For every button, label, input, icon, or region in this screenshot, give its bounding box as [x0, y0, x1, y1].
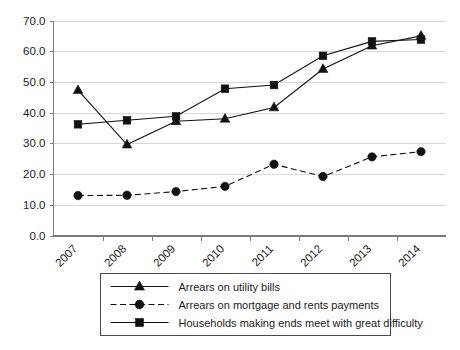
legend-item-label: Households making ends meet with great d… — [179, 317, 424, 329]
y-axis-tick-label: 60.0 — [23, 45, 45, 57]
y-axis-tick-label: 30.0 — [23, 137, 45, 149]
legend-item-label: Arrears on mortgage and rents payments — [179, 299, 380, 311]
series-markers-2 — [74, 36, 425, 128]
data-point-marker-square — [123, 117, 131, 125]
data-point-marker-triangle — [73, 85, 83, 94]
data-point-marker-triangle — [318, 64, 328, 73]
y-axis-tick-label: 40.0 — [23, 107, 45, 119]
y-axis-tick-label: 10.0 — [23, 199, 45, 211]
data-point-marker-circle — [368, 153, 376, 161]
chart-legend: Arrears on utility billsArrears on mortg… — [101, 274, 424, 336]
x-axis — [54, 236, 446, 241]
series-line-0 — [78, 36, 421, 145]
y-axis-tick-label: 20.0 — [23, 168, 45, 180]
data-point-marker-circle — [74, 191, 82, 199]
data-point-marker-circle — [123, 191, 131, 199]
x-axis-tick-label: 2012 — [298, 242, 325, 269]
data-point-marker-square — [172, 113, 180, 121]
x-axis-tick-label: 2010 — [200, 242, 227, 269]
y-tick-labels: 0.010.020.030.040.050.060.070.0 — [23, 15, 45, 242]
series-markers-1 — [74, 147, 425, 199]
y-axis-tick-label: 0.0 — [30, 230, 46, 242]
line-chart: 0.010.020.030.040.050.060.070.0 20072008… — [0, 0, 460, 350]
data-point-marker-square — [74, 121, 82, 129]
data-point-marker-circle — [172, 187, 180, 195]
x-axis-tick-label: 2008 — [102, 242, 129, 269]
series-lines — [78, 36, 421, 196]
data-point-marker-square — [417, 36, 425, 44]
data-point-marker-circle — [417, 147, 425, 155]
x-axis-tick-label: 2007 — [53, 242, 80, 269]
data-point-marker-square — [319, 52, 327, 60]
x-tick-labels: 20072008200920102011201220132014 — [53, 242, 423, 269]
y-axis-tick-label: 50.0 — [23, 76, 45, 88]
series-markers-0 — [73, 31, 426, 148]
data-point-marker-square — [136, 319, 144, 327]
chart-canvas: 0.010.020.030.040.050.060.070.0 20072008… — [0, 0, 460, 350]
legend-item-label: Arrears on utility bills — [179, 281, 281, 293]
data-point-marker-square — [368, 38, 376, 46]
x-axis-tick-label: 2009 — [151, 242, 178, 269]
x-axis-tick-label: 2013 — [347, 242, 374, 269]
data-point-marker-square — [221, 85, 229, 93]
y-axis — [50, 21, 54, 237]
data-point-marker-circle — [319, 172, 327, 180]
data-point-marker-circle — [135, 300, 144, 309]
data-point-marker-circle — [270, 160, 278, 168]
y-axis-tick-label: 70.0 — [23, 15, 45, 27]
x-axis-tick-label: 2011 — [249, 242, 275, 268]
data-point-marker-triangle — [269, 102, 279, 111]
data-point-marker-square — [270, 81, 278, 89]
data-point-marker-circle — [221, 182, 229, 190]
x-axis-tick-label: 2014 — [396, 242, 423, 269]
series-line-2 — [78, 40, 421, 125]
